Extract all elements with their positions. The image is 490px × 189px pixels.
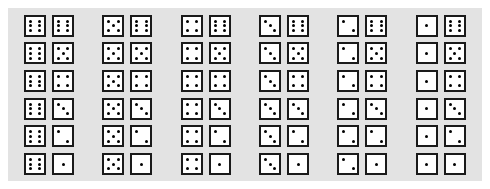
die-right-face-6 bbox=[287, 15, 309, 37]
pip-empty bbox=[292, 112, 295, 115]
pip-dot bbox=[269, 24, 272, 27]
pip-empty bbox=[342, 135, 345, 138]
pip-dot bbox=[273, 167, 276, 170]
pip-empty bbox=[375, 167, 378, 170]
pip-dot bbox=[264, 130, 267, 133]
pip-empty bbox=[453, 103, 456, 106]
pip-empty bbox=[117, 135, 120, 138]
die-right-face-3 bbox=[130, 98, 152, 120]
pip-empty bbox=[347, 80, 350, 83]
pip-empty bbox=[453, 135, 456, 138]
pip-dot bbox=[223, 24, 226, 27]
pip-dot bbox=[195, 47, 198, 50]
pip-dot bbox=[38, 47, 41, 50]
dice-pair-6-4 bbox=[10, 67, 88, 95]
pip-dot bbox=[117, 75, 120, 78]
die-left-face-4 bbox=[181, 153, 203, 175]
pip-empty bbox=[66, 80, 69, 83]
dice-pair-6-6 bbox=[10, 12, 88, 40]
pip-empty bbox=[425, 103, 428, 106]
pip-dot bbox=[269, 163, 272, 166]
pip-empty bbox=[62, 140, 65, 143]
pip-dot bbox=[38, 80, 41, 83]
pip-empty bbox=[269, 57, 272, 60]
pip-empty bbox=[430, 158, 433, 161]
pip-dot bbox=[458, 112, 461, 115]
pip-empty bbox=[453, 57, 456, 60]
die-left-face-3 bbox=[259, 153, 281, 175]
pip-empty bbox=[297, 57, 300, 60]
pip-empty bbox=[380, 163, 383, 166]
pip-empty bbox=[375, 130, 378, 133]
pip-empty bbox=[380, 167, 383, 170]
pip-empty bbox=[269, 75, 272, 78]
pip-empty bbox=[264, 112, 267, 115]
pip-empty bbox=[421, 130, 424, 133]
pip-empty bbox=[57, 107, 60, 110]
pip-empty bbox=[273, 52, 276, 55]
pip-dot bbox=[380, 24, 383, 27]
pip-dot bbox=[117, 140, 120, 143]
pip-empty bbox=[112, 140, 115, 143]
die-right-face-4 bbox=[52, 70, 74, 92]
pip-empty bbox=[57, 52, 60, 55]
pip-dot bbox=[195, 158, 198, 161]
pip-empty bbox=[140, 75, 143, 78]
pip-empty bbox=[135, 107, 138, 110]
pip-empty bbox=[425, 75, 428, 78]
pip-dot bbox=[195, 140, 198, 143]
pip-empty bbox=[458, 80, 461, 83]
die-right-face-3 bbox=[444, 98, 466, 120]
pip-empty bbox=[297, 29, 300, 32]
pip-empty bbox=[453, 167, 456, 170]
dice-pair-6-3 bbox=[10, 95, 88, 123]
pip-empty bbox=[430, 80, 433, 83]
die-right-face-1 bbox=[52, 153, 74, 175]
pip-dot bbox=[214, 84, 217, 87]
pip-empty bbox=[218, 158, 221, 161]
pip-dot bbox=[38, 29, 41, 32]
pip-empty bbox=[347, 135, 350, 138]
pip-empty bbox=[195, 52, 198, 55]
die-right-face-2 bbox=[130, 125, 152, 147]
pip-dot bbox=[370, 84, 373, 87]
pip-dot bbox=[62, 163, 65, 166]
pip-empty bbox=[117, 163, 120, 166]
pip-empty bbox=[145, 158, 148, 161]
pip-empty bbox=[342, 52, 345, 55]
pip-empty bbox=[430, 52, 433, 55]
pip-dot bbox=[135, 20, 138, 23]
pip-empty bbox=[190, 130, 193, 133]
pip-dot bbox=[370, 75, 373, 78]
pip-empty bbox=[264, 167, 267, 170]
pip-empty bbox=[66, 130, 69, 133]
die-left-face-1 bbox=[416, 98, 438, 120]
pip-empty bbox=[269, 103, 272, 106]
pip-empty bbox=[370, 112, 373, 115]
pip-dot bbox=[218, 163, 221, 166]
pip-empty bbox=[342, 80, 345, 83]
pip-dot bbox=[38, 75, 41, 78]
pip-dot bbox=[145, 75, 148, 78]
pip-empty bbox=[301, 52, 304, 55]
pip-empty bbox=[453, 75, 456, 78]
die-left-face-4 bbox=[181, 15, 203, 37]
pip-dot bbox=[264, 20, 267, 23]
pip-dot bbox=[425, 52, 428, 55]
pip-empty bbox=[264, 52, 267, 55]
pip-dot bbox=[29, 103, 32, 106]
pip-empty bbox=[66, 163, 69, 166]
die-left-face-2 bbox=[337, 15, 359, 37]
pip-empty bbox=[145, 107, 148, 110]
pip-empty bbox=[380, 80, 383, 83]
pip-dot bbox=[112, 52, 115, 55]
pip-empty bbox=[62, 57, 65, 60]
pip-dot bbox=[342, 158, 345, 161]
pip-empty bbox=[458, 130, 461, 133]
pip-empty bbox=[370, 167, 373, 170]
pip-dot bbox=[38, 52, 41, 55]
pip-empty bbox=[380, 103, 383, 106]
pip-empty bbox=[425, 20, 428, 23]
pip-dot bbox=[57, 57, 60, 60]
pip-empty bbox=[140, 57, 143, 60]
